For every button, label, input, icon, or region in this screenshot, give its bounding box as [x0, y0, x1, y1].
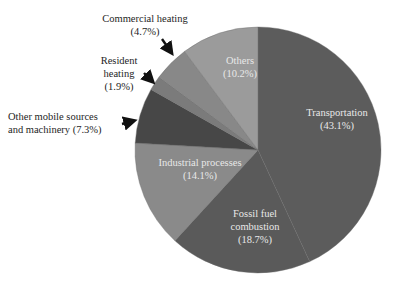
arrow-icon-commercial: [162, 39, 171, 52]
label-text: Industrial processes: [140, 156, 260, 169]
label-industrial-processes: Industrial processes (14.1%): [140, 156, 260, 182]
label-text: Others: [210, 54, 270, 67]
label-text: Fossil fuel: [210, 207, 300, 220]
pie-chart: [0, 0, 399, 287]
label-value: (43.1%): [282, 119, 392, 132]
arrow-icon-resident: [144, 73, 152, 81]
label-text: Transportation: [282, 106, 392, 119]
label-others: Others (10.2%): [210, 54, 270, 80]
label-text: Resident: [94, 54, 144, 67]
label-value: (18.7%): [210, 233, 300, 246]
label-fossil-fuel: Fossil fuel combustion (18.7%): [210, 207, 300, 246]
label-text: Commercial heating: [95, 12, 195, 25]
label-value: (14.1%): [140, 169, 260, 182]
label-value: (4.7%): [95, 25, 195, 38]
label-commercial-heating: Commercial heating (4.7%): [95, 12, 195, 38]
label-text: heating: [94, 67, 144, 80]
label-text: Other mobile sources: [8, 110, 120, 123]
label-other-mobile-sources: Other mobile sources and machinery (7.3%…: [8, 110, 120, 136]
label-transportation: Transportation (43.1%): [282, 106, 392, 132]
label-text: combustion: [210, 220, 300, 233]
label-value: (10.2%): [210, 67, 270, 80]
label-value: and machinery (7.3%): [8, 123, 120, 136]
arrow-icon-other-mobile: [122, 121, 133, 124]
label-resident-heating: Resident heating (1.9%): [94, 54, 144, 93]
label-value: (1.9%): [94, 80, 144, 93]
